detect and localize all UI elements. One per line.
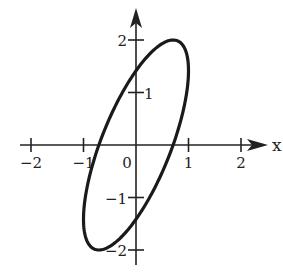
chart-plot: −2−1012−2−112 x xyxy=(0,0,283,280)
x-tick-label: 0 xyxy=(122,154,132,172)
y-tick-label: −1 xyxy=(105,190,127,208)
x-tick-label: 1 xyxy=(184,154,194,172)
y-tick-label: −2 xyxy=(105,242,127,260)
y-tick-label: 1 xyxy=(144,85,154,103)
y-tick-label: 2 xyxy=(117,32,127,50)
axes xyxy=(20,8,268,265)
x-tick-label: 2 xyxy=(236,154,246,172)
x-tick-label: −2 xyxy=(20,154,42,172)
x-axis-label: x xyxy=(272,135,282,155)
